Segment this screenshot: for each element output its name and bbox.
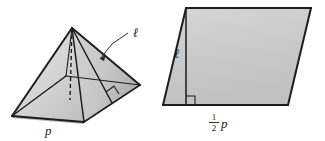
- square-pyramid: ℓ p: [12, 25, 140, 138]
- parallelogram-base-label: 1 2 p: [209, 112, 228, 133]
- parallelogram-face: [163, 8, 311, 105]
- base-fraction-denominator: 2: [212, 123, 217, 133]
- parallelogram-height-label: ℓ: [174, 46, 180, 61]
- equivalent-parallelogram: ℓ 1 2 p: [163, 8, 311, 133]
- base-fraction-numerator: 1: [212, 112, 217, 122]
- base-variable-label: p: [220, 116, 228, 131]
- pyramid-slant-height-label: ℓ: [133, 25, 139, 40]
- geometry-figure: ℓ p ℓ 1 2 p: [0, 0, 325, 141]
- pyramid-base-label: p: [44, 123, 52, 138]
